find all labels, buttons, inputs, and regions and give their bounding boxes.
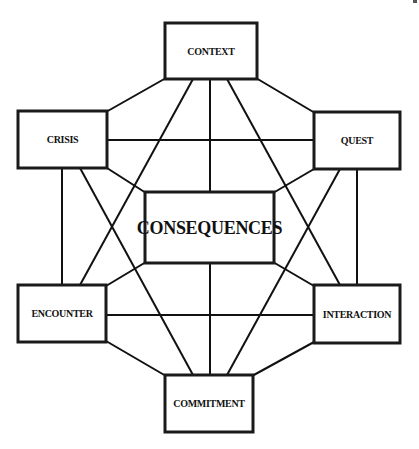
node-label: CONTEXT: [187, 46, 235, 57]
node-label: CONSEQUENCES: [137, 218, 283, 238]
edge-interaction-commitment: [252, 342, 314, 376]
edge-encounter-consequences: [106, 262, 146, 286]
node-label: CRISIS: [47, 134, 79, 145]
node-label: QUEST: [341, 135, 374, 146]
node-encounter: ENCOUNTER: [18, 285, 106, 342]
page-corner-mark: [413, 0, 417, 3]
node-label: INTERACTION: [323, 309, 392, 320]
node-quest: QUEST: [314, 112, 400, 169]
edge-interaction-consequences: [273, 262, 314, 286]
node-label: ENCOUNTER: [31, 308, 93, 319]
node-interaction: INTERACTION: [314, 285, 400, 343]
edge-crisis-consequences: [107, 168, 146, 193]
consequences-network-diagram: CONTEXTCRISISQUESTCONSEQUENCESENCOUNTERI…: [0, 0, 419, 449]
node-crisis: CRISIS: [18, 111, 107, 168]
edge-encounter-commitment: [106, 341, 166, 376]
edge-context-quest: [256, 78, 315, 113]
node-consequences: CONSEQUENCES: [137, 192, 283, 263]
node-commitment: COMMITMENT: [165, 375, 253, 432]
node-label: COMMITMENT: [173, 398, 245, 409]
node-context: CONTEXT: [165, 23, 257, 79]
edge-context-crisis: [106, 78, 166, 112]
